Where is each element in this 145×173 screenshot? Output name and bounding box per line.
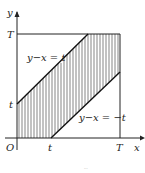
x-axis-arrow-icon <box>140 136 145 141</box>
y-axis-label: y <box>6 7 13 18</box>
x-tick-t: t <box>48 142 53 153</box>
line-y-minus-x-eq-t <box>17 34 88 104</box>
y-tick-T: T <box>7 29 15 40</box>
x-tick-T: T <box>116 142 124 153</box>
line-y-minus-x-eq-neg-t <box>51 72 120 138</box>
line-label-lower: y−x = −t <box>78 112 127 123</box>
line-label-upper: y−x = t <box>26 52 66 63</box>
y-tick-t: t <box>9 99 14 110</box>
y-axis-arrow-icon <box>15 11 20 17</box>
diagram-canvas: y x O T t t T y−x = t y−x = −t ... <box>0 0 145 173</box>
caption-fragment: ... <box>84 165 88 170</box>
origin-label: O <box>6 142 14 153</box>
x-axis-label: x <box>134 142 140 153</box>
shaded-region <box>19 30 118 140</box>
